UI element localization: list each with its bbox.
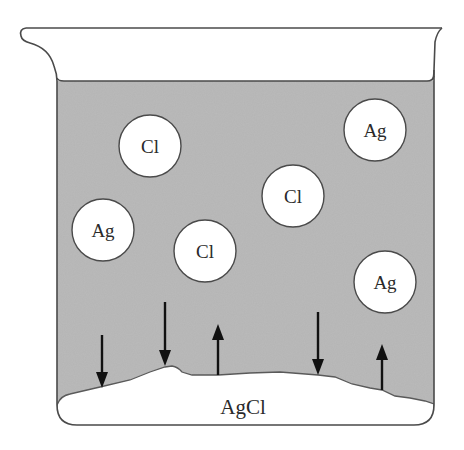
ion-cl-1: Cl (119, 115, 181, 177)
beaker-diagram: Cl Ag Cl Ag Cl Ag (0, 0, 464, 450)
svg-text:Ag: Ag (91, 220, 115, 241)
liquid-surface (57, 76, 434, 81)
agcl-label: AgCl (220, 395, 266, 419)
ion-cl-2: Cl (262, 165, 324, 227)
svg-text:Cl: Cl (196, 241, 214, 262)
beaker-spout (21, 28, 57, 81)
ion-ag-2: Ag (72, 199, 134, 261)
svg-text:Cl: Cl (284, 186, 302, 207)
ion-ag-3: Ag (354, 251, 416, 313)
ion-cl-3: Cl (174, 220, 236, 282)
ion-ag-1: Ag (344, 99, 406, 161)
svg-text:Cl: Cl (141, 136, 159, 157)
svg-text:Ag: Ag (373, 272, 397, 293)
svg-text:Ag: Ag (363, 120, 387, 141)
